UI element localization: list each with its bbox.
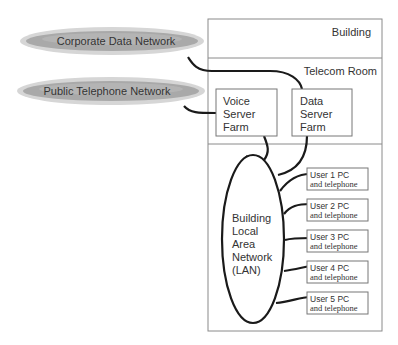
svg-text:Area: Area	[232, 238, 256, 250]
svg-text:Local: Local	[232, 225, 258, 237]
svg-text:and telephone: and telephone	[310, 210, 358, 220]
public-telephone-network: Public Telephone Network	[17, 77, 205, 105]
svg-text:(LAN): (LAN)	[232, 264, 261, 276]
corporate-network-label: Corporate Data Network	[57, 35, 176, 47]
svg-text:Farm: Farm	[300, 121, 326, 133]
svg-text:Voice: Voice	[223, 95, 250, 107]
building-label: Building	[332, 26, 371, 38]
svg-text:Farm: Farm	[223, 121, 249, 133]
svg-text:Server: Server	[300, 108, 333, 120]
user-3-box: User 3 PC and telephone	[307, 230, 368, 252]
user-1-box: User 1 PC and telephone	[307, 168, 368, 190]
svg-text:Server: Server	[223, 108, 256, 120]
network-diagram: Building Telecom Room Corporate Data Net…	[0, 0, 398, 345]
user-2-box: User 2 PC and telephone	[307, 199, 368, 221]
building-lan: Building Local Area Network (LAN)	[222, 155, 284, 323]
telecom-room-label: Telecom Room	[304, 65, 377, 77]
svg-text:and telephone: and telephone	[310, 241, 358, 251]
data-server-farm: Data Server Farm	[292, 89, 352, 136]
svg-text:Data: Data	[300, 95, 324, 107]
svg-text:and telephone: and telephone	[310, 272, 358, 282]
public-network-label: Public Telephone Network	[44, 85, 171, 97]
corporate-data-network: Corporate Data Network	[20, 27, 204, 55]
svg-text:Network: Network	[232, 251, 273, 263]
user-4-box: User 4 PC and telephone	[307, 261, 368, 283]
svg-text:and telephone: and telephone	[310, 303, 358, 313]
svg-text:and telephone: and telephone	[310, 179, 358, 189]
svg-text:Building: Building	[232, 212, 271, 224]
user-5-box: User 5 PC and telephone	[307, 292, 368, 314]
voice-server-farm: Voice Server Farm	[216, 89, 277, 136]
